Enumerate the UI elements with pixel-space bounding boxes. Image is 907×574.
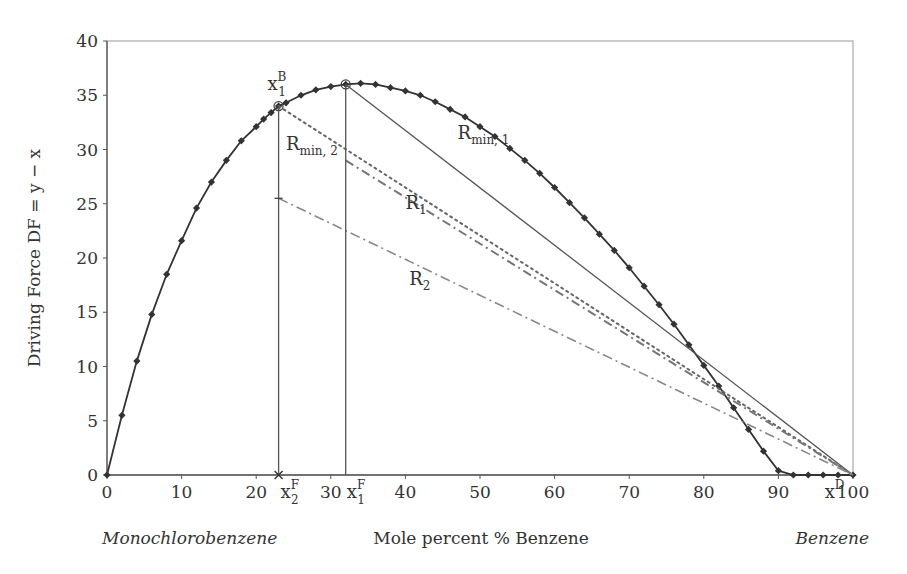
diamond-marker-icon: [402, 87, 409, 94]
left-end-label: Monochlorobenzene: [101, 528, 277, 548]
x-tick-label: 40: [395, 482, 417, 502]
diamond-marker-icon: [163, 271, 170, 278]
y-tick-label: 10: [76, 357, 98, 377]
x-tick-label: 80: [693, 482, 715, 502]
y-tick-label: 15: [76, 302, 98, 322]
x-tick-label: 20: [245, 482, 267, 502]
annotation-x1b: xB1: [267, 70, 286, 99]
y-axis-title: Driving Force DF = y − x: [24, 148, 44, 367]
plot-frame: [107, 41, 853, 475]
x-tick-label: 70: [618, 482, 640, 502]
x-tick-label: 50: [469, 482, 491, 502]
annotation-r1: R1: [405, 192, 426, 217]
annotation-rmin-1: Rmin, 1: [458, 122, 510, 147]
diamond-marker-icon: [387, 84, 394, 91]
plot-area-border: [107, 41, 853, 475]
annotation-r2: R2: [409, 268, 430, 293]
diamond-marker-icon: [103, 471, 110, 478]
y-tick-label: 35: [76, 85, 98, 105]
diamond-marker-icon: [118, 412, 125, 419]
diamond-marker-icon: [133, 357, 140, 364]
x-axis-title: Mole percent % Benzene: [373, 528, 588, 548]
diamond-marker-icon: [357, 80, 364, 87]
x-tick-label: 90: [768, 482, 790, 502]
x-tick-label: 0: [102, 482, 113, 502]
diamond-marker-icon: [820, 471, 827, 478]
diamond-marker-icon: [327, 83, 334, 90]
series-r-min-2: [279, 106, 853, 475]
diamond-marker-icon: [447, 106, 454, 113]
diamond-marker-icon: [372, 81, 379, 88]
x-tick-label: 10: [171, 482, 193, 502]
diamond-marker-icon: [297, 92, 304, 99]
diamond-marker-icon: [805, 471, 812, 478]
y-tick-label: 30: [76, 140, 98, 160]
annotation-rmin-2: Rmin, 2: [286, 133, 338, 158]
diamond-marker-icon: [432, 98, 439, 105]
y-tick-label: 25: [76, 194, 98, 214]
diamond-marker-icon: [417, 92, 424, 99]
diamond-marker-icon: [312, 86, 319, 93]
diamond-marker-icon: [178, 237, 185, 244]
y-tick-label: 0: [87, 465, 98, 485]
x-tick-label: 30: [320, 482, 342, 502]
y-tick-label: 5: [87, 411, 98, 431]
series-r-2: [279, 198, 853, 475]
diamond-marker-icon: [148, 311, 155, 318]
annotation-x2f: xF2: [281, 478, 299, 507]
x-tick-label: 60: [544, 482, 566, 502]
y-tick-label: 20: [76, 248, 98, 268]
right-end-label: Benzene: [794, 528, 869, 548]
annotation-x1f: xF1: [347, 478, 365, 507]
chart: 01020304050607080901000510152025303540 x…: [0, 0, 907, 574]
diamond-marker-icon: [193, 204, 200, 211]
diamond-marker-icon: [790, 471, 797, 478]
y-tick-label: 40: [76, 31, 98, 51]
